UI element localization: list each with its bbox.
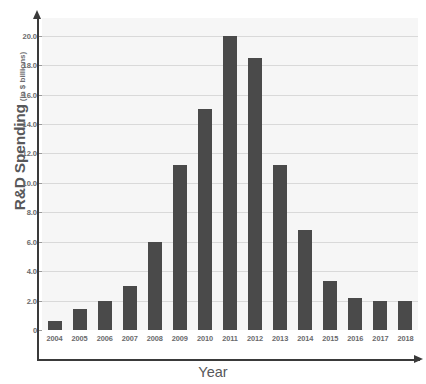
bar-chart: R&D Spending (in $ billions) 02.04.06.08… bbox=[0, 0, 426, 384]
x-axis-tick-label: 2009 bbox=[172, 334, 188, 343]
y-axis-tick-mark bbox=[38, 271, 42, 272]
y-axis-tick-mark bbox=[38, 65, 42, 66]
y-axis-tick-label: 10.0 bbox=[3, 178, 37, 187]
y-axis-line bbox=[37, 18, 39, 360]
y-axis-tick-mark bbox=[38, 330, 42, 331]
x-axis-tick-label: 2012 bbox=[247, 334, 263, 343]
x-axis-line bbox=[37, 359, 420, 361]
y-axis-tick-label: 2.0 bbox=[3, 296, 37, 305]
x-axis-tick-label: 2016 bbox=[347, 334, 363, 343]
y-axis-tick-mark bbox=[38, 242, 42, 243]
y-axis-tick-mark bbox=[38, 183, 42, 184]
y-axis-tick-label: 12.0 bbox=[3, 149, 37, 158]
y-axis-tick-mark bbox=[38, 301, 42, 302]
x-axis-tick-label: 2017 bbox=[372, 334, 388, 343]
x-axis-tick-label: 2018 bbox=[397, 334, 413, 343]
y-axis-tick-mark bbox=[38, 124, 42, 125]
x-axis-tick-label: 2008 bbox=[147, 334, 163, 343]
bar bbox=[98, 301, 112, 330]
bar bbox=[323, 281, 337, 330]
y-axis-tick-label: 6.0 bbox=[3, 237, 37, 246]
bar bbox=[198, 109, 212, 330]
y-axis-tick-label: 14.0 bbox=[3, 119, 37, 128]
bar bbox=[173, 165, 187, 330]
y-axis-tick-labels: 02.04.06.08.010.012.014.016.018.020.0 bbox=[0, 18, 37, 330]
bar bbox=[148, 242, 162, 330]
y-axis-tick-label: 8.0 bbox=[3, 208, 37, 217]
x-axis-tick-label: 2010 bbox=[197, 334, 213, 343]
x-axis-tick-label: 2004 bbox=[47, 334, 63, 343]
y-axis-tick-label: 4.0 bbox=[3, 267, 37, 276]
y-axis-tick-label: 16.0 bbox=[3, 90, 37, 99]
x-axis-tick-label: 2011 bbox=[222, 334, 238, 343]
bar bbox=[348, 298, 362, 330]
x-axis-tick-label: 2013 bbox=[272, 334, 288, 343]
x-axis-tick-label: 2014 bbox=[297, 334, 313, 343]
bar bbox=[298, 230, 312, 330]
bar bbox=[248, 58, 262, 330]
y-axis-tick-mark bbox=[38, 95, 42, 96]
y-axis-tick-label: 0 bbox=[3, 326, 37, 335]
x-axis-title: Year bbox=[0, 364, 426, 380]
y-axis-tick-mark bbox=[38, 212, 42, 213]
y-axis-tick-label: 18.0 bbox=[3, 61, 37, 70]
y-axis-tick-mark bbox=[38, 36, 42, 37]
bars-layer bbox=[42, 18, 418, 330]
plot-area bbox=[42, 18, 418, 330]
y-axis-arrow-icon bbox=[33, 10, 41, 19]
bar bbox=[73, 309, 87, 330]
x-axis-tick-label: 2006 bbox=[97, 334, 113, 343]
bar bbox=[223, 36, 237, 330]
x-axis-tick-label: 2007 bbox=[122, 334, 138, 343]
y-axis-tick-mark bbox=[38, 153, 42, 154]
bar bbox=[373, 301, 387, 330]
x-axis-tick-labels: 2004200520062007200820092010201120122013… bbox=[42, 334, 418, 348]
bar bbox=[123, 286, 137, 330]
bar bbox=[273, 165, 287, 330]
y-axis-tick-label: 20.0 bbox=[3, 31, 37, 40]
x-axis-tick-label: 2005 bbox=[72, 334, 88, 343]
x-axis-tick-label: 2015 bbox=[322, 334, 338, 343]
x-axis-arrow-icon bbox=[414, 355, 423, 363]
bar bbox=[398, 301, 412, 330]
bar bbox=[48, 321, 62, 330]
